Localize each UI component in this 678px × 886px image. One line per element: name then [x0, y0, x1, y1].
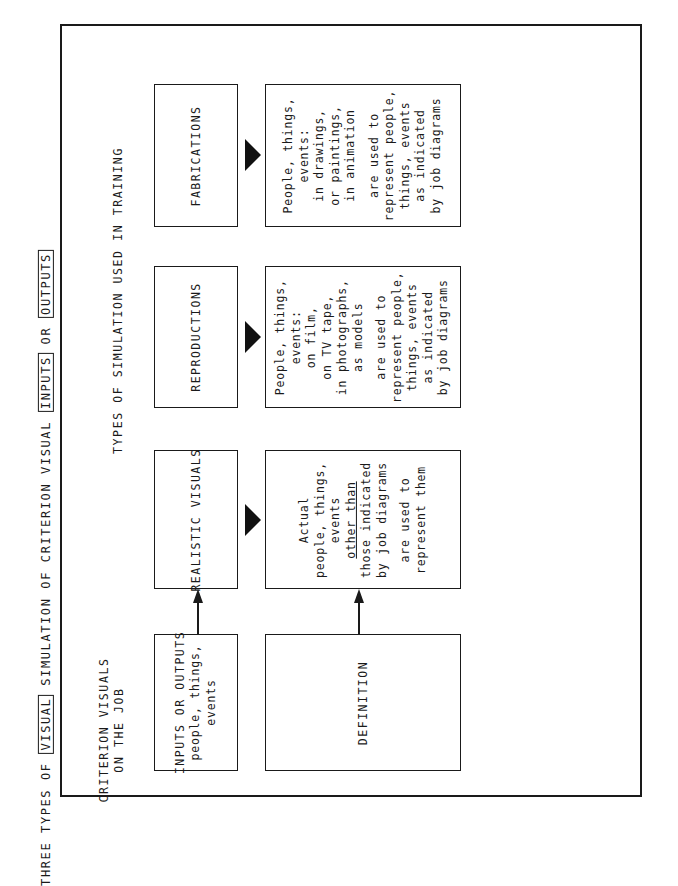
realistic-def-line: people, things, [312, 462, 328, 578]
inputs-outputs-text: INPUTS OR OUTPUTS people, things, events [154, 634, 238, 771]
fabrications-definition: People, things, events: in drawings, or … [265, 84, 461, 227]
triangle-pointer-reproductions-icon [245, 321, 261, 353]
inputs-outputs-label: INPUTS OR OUTPUTS [173, 631, 189, 774]
title-prefix: THREE TYPES OF [39, 762, 53, 886]
definition-text: DEFINITION [265, 634, 461, 771]
realistic-def-line: Actual [297, 462, 313, 578]
reproductions-def-line: events: [289, 271, 305, 402]
realistic-def-closing: represent them [413, 462, 429, 578]
realistic-def-line: events [328, 462, 344, 578]
reproductions-def-closing: represent people, [390, 271, 406, 402]
title-connector: OR [39, 327, 53, 345]
inputs-outputs-line2: people, things, [189, 631, 205, 774]
reproductions-def-line: on film, [305, 271, 321, 402]
inputs-outputs-line3: events [204, 631, 220, 774]
fabrications-heading: FABRICATIONS [154, 84, 238, 227]
reproductions-def-closing: by job diagrams [437, 271, 453, 402]
fabrications-def-line: People, things, [282, 90, 298, 221]
criterion-heading-line2: ON THE JOB [112, 658, 127, 803]
definition-label: DEFINITION [355, 660, 371, 744]
reproductions-def-line: on TV tape, [320, 271, 336, 402]
fabrications-def-closing: represent people, [383, 90, 399, 221]
triangle-pointer-realistic-icon [245, 504, 261, 536]
fabrications-label: FABRICATIONS [188, 105, 204, 206]
reproductions-def-line: in photographs, [336, 271, 352, 402]
fabrications-def-closing: by job diagrams [429, 90, 445, 221]
title-boxed-outputs: OUTPUTS [38, 250, 54, 318]
criterion-heading: CRITERION VISUALS ON THE JOB [92, 680, 132, 780]
realistic-visuals-heading: REALISTIC VISUALS [154, 450, 238, 589]
realistic-def-line: those indicated [359, 462, 375, 578]
reproductions-def-closing: things, events [406, 271, 422, 402]
fabrications-def-closing: things, events [398, 90, 414, 221]
reproductions-heading: REPRODUCTIONS [154, 266, 238, 408]
criterion-heading-line1: CRITERION VISUALS [97, 658, 112, 803]
realistic-visuals-label: REALISTIC VISUALS [188, 448, 204, 591]
realistic-definition: Actual people, things, events other than… [265, 450, 461, 589]
fabrications-def-line: or paintings, [328, 90, 344, 221]
reproductions-definition: People, things, events: on film, on TV t… [265, 266, 461, 408]
fabrications-def-line: in animation [344, 90, 360, 221]
page-title: THREE TYPES OF VISUAL SIMULATION OF CRIT… [36, 340, 56, 796]
reproductions-def-line: People, things, [274, 271, 290, 402]
title-boxed-visual: VISUAL [38, 695, 54, 754]
realistic-def-underlined: other than [343, 462, 359, 578]
title-boxed-inputs: INPUTS [38, 353, 54, 412]
fabrications-def-line: events: [297, 90, 313, 221]
title-middle: SIMULATION OF CRITERION VISUAL [39, 421, 53, 686]
realistic-def-closing: are used to [398, 462, 414, 578]
reproductions-def-closing: are used to [375, 271, 391, 402]
reproductions-def-line: as models [351, 271, 367, 402]
fabrications-def-closing: are used to [367, 90, 383, 221]
triangle-pointer-fabrications-icon [245, 139, 261, 171]
fabrications-def-line: in drawings, [313, 90, 329, 221]
reproductions-label: REPRODUCTIONS [188, 282, 204, 392]
simulation-heading-text: TYPES OF SIMULATION USED IN TRAINING [111, 147, 126, 454]
realistic-def-line: by job diagrams [374, 462, 390, 578]
simulation-heading: TYPES OF SIMULATION USED IN TRAINING [108, 190, 128, 410]
reproductions-def-closing: as indicated [421, 271, 437, 402]
fabrications-def-closing: as indicated [414, 90, 430, 221]
